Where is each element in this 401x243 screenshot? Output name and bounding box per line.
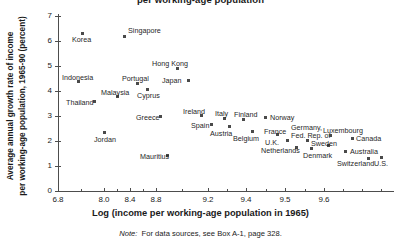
x-tick-mark bbox=[246, 188, 247, 192]
x-tick-mark bbox=[208, 188, 209, 192]
data-point-label: Malaysia bbox=[101, 89, 129, 97]
x-tick-label: 6.8 bbox=[43, 196, 73, 204]
data-point-label: Australia bbox=[350, 148, 378, 156]
y-tick-label: 5 bbox=[40, 62, 52, 70]
data-point-marker[interactable] bbox=[264, 116, 267, 119]
x-tick-mark bbox=[58, 188, 59, 192]
data-point-label: Thailand bbox=[66, 99, 94, 107]
x-tick-mark-minor bbox=[143, 189, 144, 192]
data-point-label: Norway bbox=[270, 114, 294, 122]
x-tick-mark bbox=[130, 188, 131, 192]
x-tick-mark-minor bbox=[81, 189, 82, 192]
y-axis-title-line1: Average annual growth rate of income bbox=[5, 10, 17, 202]
data-point-label: France bbox=[264, 128, 286, 136]
data-point-label: Netherlands bbox=[261, 147, 300, 155]
x-tick-mark-minor bbox=[362, 189, 363, 192]
data-point-marker[interactable] bbox=[286, 139, 289, 142]
data-point-label: Italy bbox=[215, 110, 228, 118]
y-tick-label: 7 bbox=[40, 12, 52, 20]
data-point-marker[interactable] bbox=[344, 150, 347, 153]
x-tick-mark-minor bbox=[381, 189, 382, 192]
y-tick-label: 1 bbox=[40, 162, 52, 170]
x-tick-mark-minor bbox=[305, 189, 306, 192]
y-axis-title-line2: per working-age population, 1965-90 (per… bbox=[17, 10, 29, 202]
data-point-label: Canada bbox=[356, 135, 381, 143]
data-point-label: Spain bbox=[191, 122, 209, 130]
x-tick-mark bbox=[324, 188, 325, 192]
data-point-marker[interactable] bbox=[123, 35, 126, 38]
y-tick-mark bbox=[55, 116, 61, 117]
data-point-label: Japan bbox=[162, 77, 182, 85]
x-tick-label: 9.2 bbox=[193, 196, 223, 204]
note-text: For data sources, see Box A-1, page 328. bbox=[142, 229, 282, 238]
data-point-label: Belgium bbox=[233, 135, 259, 143]
data-point-label: Jordan bbox=[94, 136, 116, 144]
scatter-chart-figure: per working-age population Average annua… bbox=[0, 0, 401, 243]
y-tick-mark bbox=[55, 141, 61, 142]
x-tick-label: 9.6 bbox=[309, 196, 339, 204]
data-point-label: Portugal bbox=[122, 75, 149, 83]
data-point-marker[interactable] bbox=[187, 79, 190, 82]
y-tick-mark bbox=[55, 66, 61, 67]
data-point-label: Denmark bbox=[303, 152, 332, 160]
note-prefix: Note: bbox=[119, 229, 137, 238]
data-point-label: Korea bbox=[72, 36, 91, 44]
x-tick-mark-minor bbox=[117, 189, 118, 192]
y-tick-label: 4 bbox=[40, 87, 52, 95]
data-point-label: Mauritius bbox=[140, 153, 169, 161]
data-point-label: Greece bbox=[136, 114, 160, 122]
data-point-marker[interactable] bbox=[210, 123, 213, 126]
x-tick-mark bbox=[104, 188, 105, 192]
x-tick-mark-minor bbox=[266, 189, 267, 192]
y-tick-label: 3 bbox=[40, 112, 52, 120]
x-tick-mark-minor bbox=[182, 189, 183, 192]
data-point-label: U.S. bbox=[374, 160, 388, 168]
data-point-marker[interactable] bbox=[251, 130, 254, 133]
x-axis-title: Log (income per working-age population i… bbox=[0, 208, 401, 218]
y-tick-mark bbox=[55, 166, 61, 167]
y-axis-title: Average annual growth rate of income per… bbox=[5, 10, 31, 202]
data-point-label: Indonesia bbox=[62, 74, 93, 82]
x-tick-mark bbox=[285, 188, 286, 192]
data-point-label: Singapore bbox=[128, 27, 161, 35]
x-tick-mark bbox=[156, 188, 157, 192]
x-tick-label: 9.4 bbox=[231, 196, 261, 204]
data-point-label: Finland bbox=[234, 111, 258, 119]
data-point-marker[interactable] bbox=[228, 125, 231, 128]
data-point-label: Sweden bbox=[311, 140, 337, 148]
y-tick-label: 2 bbox=[40, 137, 52, 145]
y-tick-label: 6 bbox=[40, 37, 52, 45]
data-point-marker[interactable] bbox=[103, 131, 106, 134]
data-point-marker[interactable] bbox=[351, 137, 354, 140]
x-tick-mark-minor bbox=[343, 189, 344, 192]
y-tick-mark bbox=[55, 91, 61, 92]
y-tick-mark bbox=[55, 16, 61, 17]
y-tick-mark bbox=[55, 41, 61, 42]
data-point-label: Ireland bbox=[183, 108, 205, 116]
x-tick-mark-minor bbox=[227, 189, 228, 192]
x-tick-label: 8.8 bbox=[141, 196, 171, 204]
chart-title: per working-age population bbox=[0, 0, 401, 6]
data-point-label: Switzerland bbox=[337, 160, 374, 168]
figure-note: Note: For data sources, see Box A-1, pag… bbox=[0, 229, 401, 238]
data-point-label: Austria bbox=[210, 130, 232, 138]
x-tick-label: 9.5 bbox=[270, 196, 300, 204]
data-point-marker[interactable] bbox=[310, 147, 313, 150]
data-point-label: Cyprus bbox=[137, 92, 160, 100]
data-point-label: Hong Kong bbox=[152, 60, 188, 68]
y-tick-label: 0 bbox=[40, 187, 52, 195]
